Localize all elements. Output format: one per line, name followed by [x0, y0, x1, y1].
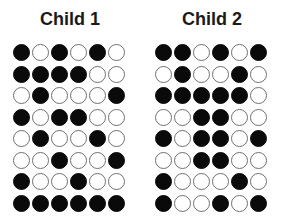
- empty-circle-icon: [89, 109, 106, 126]
- empty-circle-icon: [13, 87, 30, 104]
- filled-circle-icon: [193, 109, 210, 126]
- filled-circle-icon: [193, 130, 210, 147]
- panel-title-child-1: Child 1: [12, 9, 128, 30]
- empty-circle-icon: [108, 44, 125, 61]
- empty-circle-icon: [250, 87, 267, 104]
- filled-circle-icon: [70, 173, 87, 190]
- empty-circle-icon: [193, 66, 210, 83]
- empty-circle-icon: [250, 66, 267, 83]
- empty-circle-icon: [193, 173, 210, 190]
- filled-circle-icon: [212, 44, 229, 61]
- filled-circle-icon: [89, 130, 106, 147]
- filled-circle-icon: [108, 195, 125, 212]
- filled-circle-icon: [155, 195, 172, 212]
- empty-circle-icon: [89, 66, 106, 83]
- filled-circle-icon: [13, 66, 30, 83]
- dot-grid-child-1: [12, 43, 126, 215]
- empty-circle-icon: [89, 152, 106, 169]
- empty-circle-icon: [32, 109, 49, 126]
- filled-circle-icon: [89, 44, 106, 61]
- dot-grid-child-2: [154, 43, 268, 215]
- filled-circle-icon: [70, 195, 87, 212]
- empty-circle-icon: [250, 173, 267, 190]
- filled-circle-icon: [212, 195, 229, 212]
- filled-circle-icon: [70, 66, 87, 83]
- empty-circle-icon: [32, 152, 49, 169]
- filled-circle-icon: [13, 195, 30, 212]
- empty-circle-icon: [174, 152, 191, 169]
- empty-circle-icon: [108, 130, 125, 147]
- filled-circle-icon: [155, 130, 172, 147]
- filled-circle-icon: [51, 44, 68, 61]
- filled-circle-icon: [250, 195, 267, 212]
- filled-circle-icon: [212, 109, 229, 126]
- empty-circle-icon: [108, 66, 125, 83]
- empty-circle-icon: [51, 130, 68, 147]
- filled-circle-icon: [231, 173, 248, 190]
- empty-circle-icon: [250, 152, 267, 169]
- filled-circle-icon: [250, 130, 267, 147]
- empty-circle-icon: [250, 109, 267, 126]
- empty-circle-icon: [70, 152, 87, 169]
- filled-circle-icon: [174, 87, 191, 104]
- filled-circle-icon: [155, 87, 172, 104]
- filled-circle-icon: [108, 87, 125, 104]
- empty-circle-icon: [108, 173, 125, 190]
- filled-circle-icon: [13, 44, 30, 61]
- empty-circle-icon: [231, 195, 248, 212]
- empty-circle-icon: [231, 152, 248, 169]
- empty-circle-icon: [155, 152, 172, 169]
- filled-circle-icon: [70, 109, 87, 126]
- empty-circle-icon: [13, 130, 30, 147]
- empty-circle-icon: [193, 195, 210, 212]
- filled-circle-icon: [32, 195, 49, 212]
- empty-circle-icon: [231, 109, 248, 126]
- empty-circle-icon: [155, 66, 172, 83]
- empty-circle-icon: [212, 66, 229, 83]
- filled-circle-icon: [51, 66, 68, 83]
- empty-circle-icon: [174, 195, 191, 212]
- empty-circle-icon: [231, 44, 248, 61]
- empty-circle-icon: [32, 173, 49, 190]
- empty-circle-icon: [32, 44, 49, 61]
- empty-circle-icon: [231, 130, 248, 147]
- filled-circle-icon: [212, 152, 229, 169]
- filled-circle-icon: [155, 44, 172, 61]
- filled-circle-icon: [13, 173, 30, 190]
- empty-circle-icon: [89, 173, 106, 190]
- filled-circle-icon: [193, 87, 210, 104]
- empty-circle-icon: [108, 109, 125, 126]
- empty-circle-icon: [70, 130, 87, 147]
- empty-circle-icon: [70, 87, 87, 104]
- empty-circle-icon: [174, 109, 191, 126]
- empty-circle-icon: [174, 130, 191, 147]
- filled-circle-icon: [89, 195, 106, 212]
- filled-circle-icon: [231, 66, 248, 83]
- filled-circle-icon: [32, 87, 49, 104]
- filled-circle-icon: [32, 66, 49, 83]
- empty-circle-icon: [13, 152, 30, 169]
- filled-circle-icon: [51, 109, 68, 126]
- filled-circle-icon: [212, 130, 229, 147]
- panel-title-child-2: Child 2: [154, 9, 270, 30]
- filled-circle-icon: [174, 44, 191, 61]
- filled-circle-icon: [231, 87, 248, 104]
- empty-circle-icon: [51, 87, 68, 104]
- filled-circle-icon: [13, 109, 30, 126]
- filled-circle-icon: [155, 173, 172, 190]
- empty-circle-icon: [193, 44, 210, 61]
- empty-circle-icon: [155, 109, 172, 126]
- filled-circle-icon: [193, 152, 210, 169]
- filled-circle-icon: [212, 87, 229, 104]
- filled-circle-icon: [108, 152, 125, 169]
- filled-circle-icon: [250, 44, 267, 61]
- empty-circle-icon: [51, 173, 68, 190]
- empty-circle-icon: [174, 173, 191, 190]
- filled-circle-icon: [51, 152, 68, 169]
- empty-circle-icon: [212, 173, 229, 190]
- empty-circle-icon: [70, 44, 87, 61]
- filled-circle-icon: [51, 195, 68, 212]
- filled-circle-icon: [32, 130, 49, 147]
- filled-circle-icon: [174, 66, 191, 83]
- empty-circle-icon: [89, 87, 106, 104]
